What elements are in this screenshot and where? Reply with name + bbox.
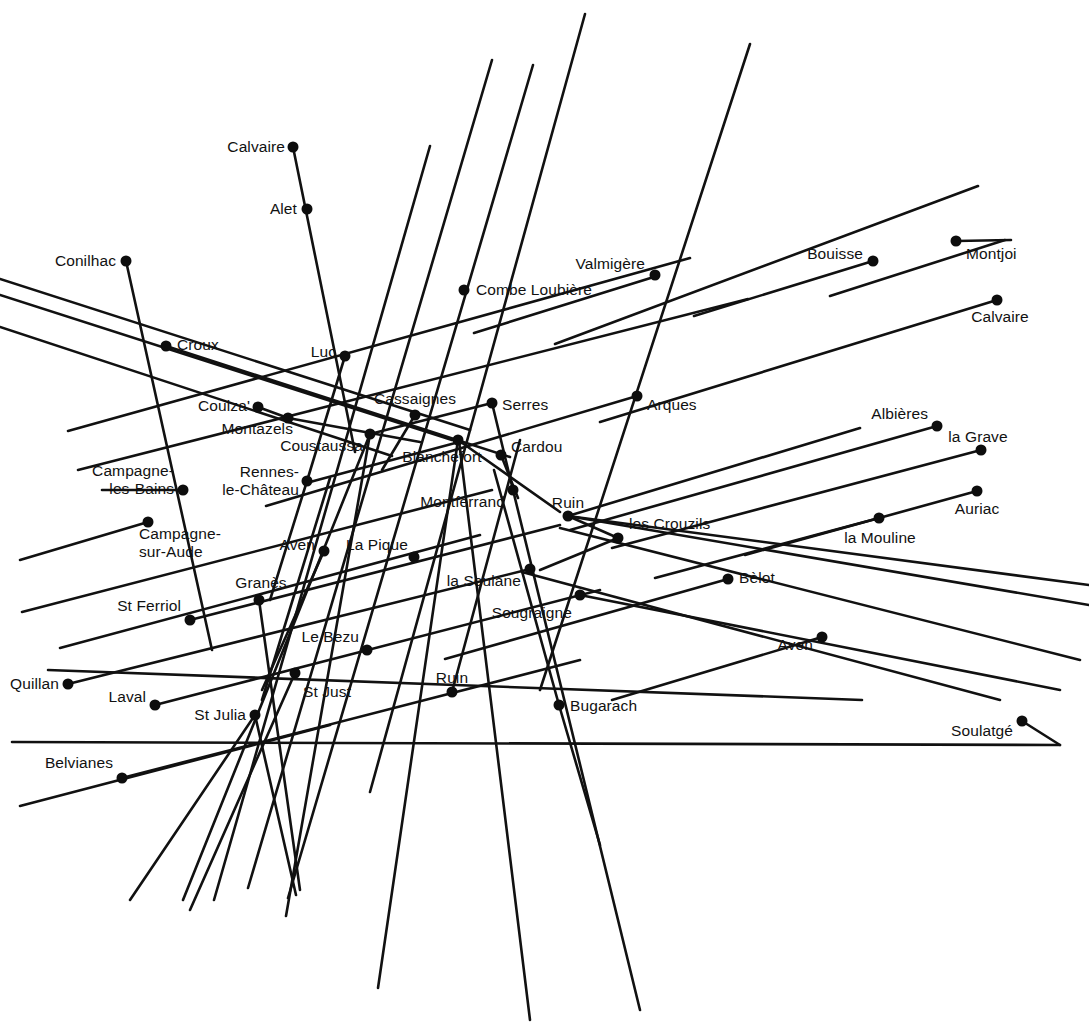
site-label: St Ferriol bbox=[117, 597, 181, 614]
site-label: Aven bbox=[778, 636, 813, 653]
site-label: Calvaire bbox=[971, 308, 1029, 325]
site-label: Cassaignes bbox=[374, 390, 456, 407]
site-label: Montferrand bbox=[420, 493, 505, 510]
site-label: Arques bbox=[647, 396, 697, 413]
site-label: Quillan bbox=[10, 675, 59, 692]
site-label: Laval bbox=[108, 688, 146, 705]
site-label: Albières bbox=[871, 405, 928, 422]
site-label: la Mouline bbox=[844, 529, 916, 546]
site-label: Campagne- les-Bains bbox=[92, 462, 174, 498]
site-label: Soulatgé bbox=[951, 722, 1013, 739]
site-label: Croux bbox=[177, 336, 219, 353]
site-label: Cardou bbox=[511, 438, 562, 455]
site-label: Bugarach bbox=[570, 697, 637, 714]
site-label: Sougraigne bbox=[492, 604, 572, 621]
site-label: Bèlot bbox=[739, 569, 775, 586]
site-label: Conilhac bbox=[55, 252, 116, 269]
site-labels-layer: CalvaireAletConilhacCombe LoubièreValmig… bbox=[0, 0, 1089, 1036]
site-label: Coustaussa bbox=[280, 437, 363, 454]
site-label: Campagne- sur-Aude bbox=[139, 525, 221, 561]
site-label: Valmigère bbox=[575, 255, 645, 272]
alignment-map: CalvaireAletConilhacCombe LoubièreValmig… bbox=[0, 0, 1089, 1036]
site-label: Belvianes bbox=[45, 754, 113, 771]
site-label: Calvaire bbox=[227, 138, 285, 155]
site-label: les Crouzils bbox=[629, 515, 710, 532]
site-label: Serres bbox=[502, 396, 548, 413]
site-label: Aven bbox=[280, 536, 315, 553]
site-label: Ruin bbox=[436, 669, 468, 686]
site-label: la Soulane bbox=[447, 572, 521, 589]
site-label: Montazels bbox=[221, 420, 293, 437]
site-label: Ruin bbox=[552, 494, 584, 511]
site-label: la Grave bbox=[948, 428, 1007, 445]
site-label: Auriac bbox=[955, 500, 1000, 517]
site-label: Rennes- le-Château bbox=[222, 463, 299, 499]
site-label: Couiza' bbox=[198, 397, 250, 414]
site-label: Luc bbox=[311, 343, 336, 360]
site-label: La Pique bbox=[346, 536, 408, 553]
site-label: St Just bbox=[303, 683, 351, 700]
site-label: Combe Loubière bbox=[476, 281, 592, 298]
site-label: Alet bbox=[270, 200, 297, 217]
site-label: Bouisse bbox=[807, 245, 863, 262]
site-label: Montjoi bbox=[966, 245, 1017, 262]
site-label: Blanchefort bbox=[402, 448, 482, 465]
site-label: St Julia bbox=[194, 706, 246, 723]
site-label: Le Bezu bbox=[301, 628, 359, 645]
site-label: Granès bbox=[235, 574, 286, 591]
